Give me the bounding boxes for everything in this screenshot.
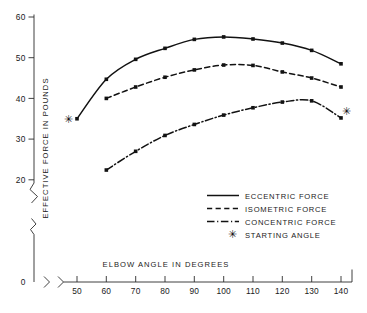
legend-label-isometric: ISOMETRIC FORCE [245, 205, 327, 214]
data-point [75, 117, 79, 121]
x-axis-break-mark-right [58, 277, 64, 288]
x-axis-break-mark-left [44, 277, 50, 288]
x-tick-label-110: 110 [246, 286, 260, 296]
x-tick-label-100: 100 [216, 286, 231, 296]
data-point [105, 97, 109, 101]
series-eccentric-force [75, 35, 343, 120]
series-line-0 [77, 37, 341, 119]
starting-angle-asterisk-icon-0: ✳ [64, 113, 73, 125]
series-concentric-force [105, 99, 343, 172]
x-tick-label-80: 80 [160, 286, 170, 296]
x-tick-label-120: 120 [275, 286, 290, 296]
x-tick-label-50: 50 [72, 286, 82, 296]
series-isometric-force [105, 63, 343, 100]
data-point [339, 85, 343, 89]
x-axis: 50 60 70 80 90 100 110 120 130 140 ELBOW… [44, 260, 352, 296]
starting-angle-asterisk-icon-1: ✳ [342, 105, 351, 117]
x-tick-label-90: 90 [189, 286, 199, 296]
data-point [222, 113, 226, 117]
data-point [222, 35, 226, 39]
data-point [163, 47, 167, 51]
y-tick-label-0: 0 [21, 277, 26, 287]
data-point [193, 123, 197, 127]
data-point [251, 106, 255, 110]
data-point [105, 77, 109, 81]
x-tick-label-140: 140 [334, 286, 349, 296]
data-point [193, 38, 197, 42]
legend-asterisk-icon: ✳ [228, 228, 237, 240]
data-point [310, 76, 314, 80]
y-axis: 60 50 40 30 20 0 EFFECTIVE FORCE IN POUN… [16, 12, 50, 287]
data-point [163, 134, 167, 138]
data-point [281, 41, 285, 45]
legend-label-eccentric: ECCENTRIC FORCE [245, 192, 329, 201]
y-axis-lower-stub [31, 219, 37, 283]
y-tick-label-60: 60 [16, 12, 26, 22]
x-tick-label-60: 60 [101, 286, 111, 296]
series-line-2 [106, 100, 341, 170]
data-point [281, 100, 285, 104]
starting-angle-annotations: ✳✳ [64, 105, 352, 125]
y-tick-label-30: 30 [16, 134, 26, 144]
data-point [163, 75, 167, 79]
legend-label-concentric: CONCENTRIC FORCE [245, 218, 336, 227]
data-point [251, 64, 255, 68]
series-line-1 [106, 65, 341, 99]
chart-legend: ECCENTRIC FORCE ISOMETRIC FORCE CONCENTR… [207, 192, 336, 241]
data-point [134, 58, 138, 62]
x-tick-label-130: 130 [304, 286, 319, 296]
data-point [134, 85, 138, 89]
chart-plot-area: 60 50 40 30 20 0 EFFECTIVE FORCE IN POUN… [0, 0, 367, 313]
data-point [339, 62, 343, 66]
data-point [222, 63, 226, 67]
data-series-layer [75, 35, 343, 172]
data-point [310, 99, 314, 103]
y-tick-label-40: 40 [16, 94, 26, 104]
data-point [281, 70, 285, 74]
data-point [251, 37, 255, 41]
y-tick-label-20: 20 [16, 175, 26, 185]
y-axis-break-mark [30, 183, 38, 203]
x-tick-label-70: 70 [131, 286, 141, 296]
x-axis-title: ELBOW ANGLE IN DEGREES [103, 260, 230, 269]
legend-label-starting-angle: STARTING ANGLE [245, 231, 321, 240]
data-point [105, 168, 109, 172]
data-point [134, 150, 138, 154]
chart-figure: 60 50 40 30 20 0 EFFECTIVE FORCE IN POUN… [0, 0, 367, 313]
data-point [193, 68, 197, 72]
data-point [310, 49, 314, 53]
y-axis-title: EFFECTIVE FORCE IN POUNDS [41, 77, 50, 218]
data-point [339, 116, 343, 120]
y-tick-label-50: 50 [16, 53, 26, 63]
